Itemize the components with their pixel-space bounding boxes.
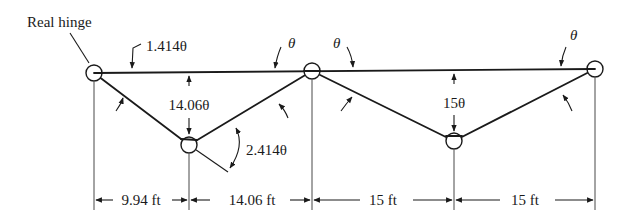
rotation-label-theta: θ	[570, 27, 578, 43]
angle-arc-2414	[230, 128, 239, 168]
dim-label-4: 15 ft	[511, 192, 540, 208]
rotation-arrow	[132, 44, 141, 68]
arc-arrow	[279, 104, 288, 118]
rotation-arrow	[275, 47, 281, 68]
arc-arrow	[116, 98, 123, 111]
dim-label-2: 14.06 ft	[229, 192, 276, 208]
dim-label-3: 15 ft	[369, 192, 398, 208]
dimension-row: 9.94 ft 14.06 ft 15 ft 15 ft	[96, 192, 593, 208]
rotation-label-1414: 1.414θ	[146, 38, 187, 54]
member-right-up	[454, 69, 595, 141]
top-chord	[94, 69, 595, 73]
rotation-label-2414: 2.414θ	[246, 142, 287, 158]
rotation-arrow	[347, 47, 353, 67]
member-right-down	[312, 71, 454, 141]
real-hinge-label: Real hinge	[27, 14, 92, 30]
chord-stub	[181, 139, 197, 140]
deflection-label-right: 15θ	[443, 95, 465, 111]
arc-arrow	[563, 95, 572, 111]
rotation-label-theta: θ	[288, 35, 296, 51]
members	[94, 69, 595, 172]
rotation-label-theta: θ	[333, 35, 341, 51]
dim-label-1: 9.94 ft	[121, 192, 161, 208]
arc-arrow	[341, 97, 352, 111]
yield-line-diagram: Real hinge 1.414θ θ θ θ 2.414θ 14.06θ 15…	[0, 0, 631, 219]
deflection-label-left: 14.06θ	[169, 97, 210, 113]
rotation-arrow	[561, 47, 566, 66]
real-hinge-leader	[70, 33, 89, 63]
